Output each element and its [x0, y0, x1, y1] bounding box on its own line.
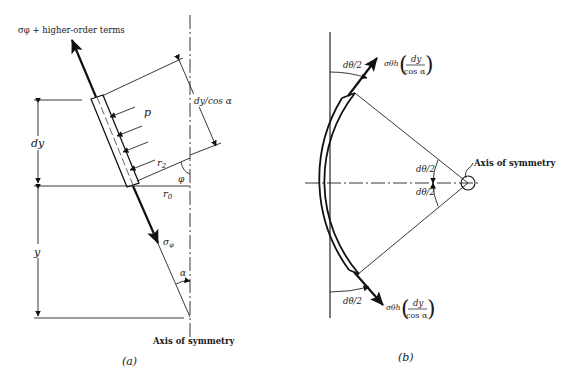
svg-text:dy: dy — [413, 298, 423, 308]
bottom-extension-line — [190, 143, 221, 155]
r2-label: r2 — [157, 157, 167, 170]
caption-b: (b) — [398, 351, 414, 364]
sigma-phi-top-arrow — [72, 40, 96, 97]
phi-label: φ — [178, 174, 185, 184]
shell-element-a — [91, 95, 139, 187]
figure-b: σθh ( dy cos α ) σθh ( dy cos α ) dθ/2 d… — [305, 32, 556, 364]
sigma-phi-bottom-arrow — [133, 186, 158, 243]
top-angle-label: dθ/2 — [343, 60, 362, 70]
top-force-label: σφ + higher-order terms — [18, 25, 125, 35]
bottom-angle-label: dθ/2 — [343, 296, 362, 306]
r0-label: r0 — [163, 188, 173, 201]
shell-element-b — [319, 93, 359, 274]
svg-text:cos α: cos α — [406, 311, 428, 320]
center-lower-angle-label: dθ/2 — [416, 187, 435, 197]
svg-text:σθh: σθh — [384, 59, 399, 68]
alpha-angle-arc — [176, 281, 190, 284]
svg-text:cos α: cos α — [404, 67, 426, 76]
axis-of-symmetry-label-b: Axis of symmetry — [473, 158, 556, 168]
svg-text:): ) — [427, 296, 436, 321]
dy-cos-alpha-label: dy/cos α — [194, 96, 232, 106]
diagram-canvas: σφ + higher-order terms p dy y σφ — [0, 0, 566, 384]
svg-text:): ) — [425, 52, 434, 77]
axis-of-symmetry-label-a: Axis of symmetry — [152, 336, 235, 346]
top-extension-line — [102, 58, 183, 96]
svg-text:dy: dy — [411, 54, 421, 64]
center-upper-angle-label: dθ/2 — [416, 164, 435, 174]
phi-angle-arc — [181, 162, 190, 174]
upper-force-label: σθh ( dy cos α ) — [384, 52, 434, 77]
pressure-label: p — [144, 106, 151, 119]
lower-force-label: σθh ( dy cos α ) — [386, 296, 436, 321]
dy-label: dy — [31, 137, 45, 150]
radial-line-upper — [355, 93, 468, 183]
sigma-phi-label: σφ — [163, 237, 174, 249]
svg-text:σθh: σθh — [386, 303, 401, 312]
alpha-label: α — [180, 268, 186, 278]
figure-a: σφ + higher-order terms p dy y σφ — [18, 15, 243, 368]
radial-line-lower — [357, 183, 468, 275]
y-label: y — [33, 246, 41, 259]
bottom-angle-arc — [330, 287, 369, 292]
caption-a: (a) — [122, 355, 137, 368]
